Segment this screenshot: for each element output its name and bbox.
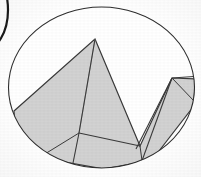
figure-canvas [0,0,201,177]
figure-root [0,0,201,177]
